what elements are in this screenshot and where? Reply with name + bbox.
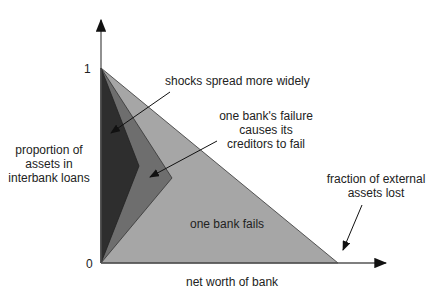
annotation-creditors: one bank's failure causes its creditors … — [210, 109, 322, 151]
origin-label: 0 — [86, 257, 93, 271]
arrow-external — [343, 205, 362, 250]
x-axis-label: net worth of bank — [186, 275, 278, 289]
annotation-one-bank: one bank fails — [190, 217, 264, 231]
y-axis-label: proportion of assets in interbank loans — [4, 143, 94, 185]
annotation-external: fraction of external assets lost — [318, 172, 434, 200]
annotation-shocks: shocks spread more widely — [165, 74, 310, 88]
y-max-label: 1 — [84, 62, 91, 76]
